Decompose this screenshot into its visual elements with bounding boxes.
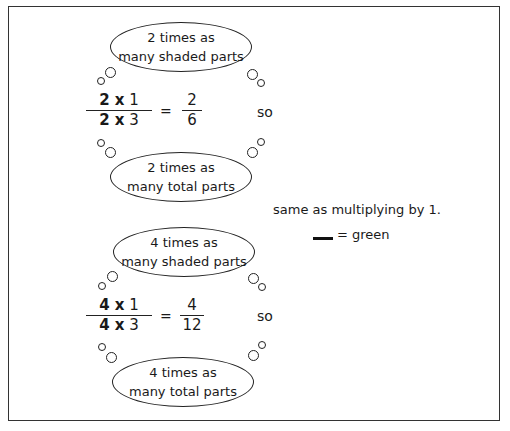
bottom-thought-bubble-2: 4 times as many total parts xyxy=(112,357,254,407)
bubble-text-line2: many total parts xyxy=(127,177,235,196)
denominator: 12 xyxy=(182,316,201,335)
fraction-left-1: 2 x 1 2 x 3 xyxy=(86,91,152,130)
thought-dot xyxy=(107,271,118,282)
numerator: 4 xyxy=(187,296,197,315)
bubble-text-line1: 4 times as xyxy=(150,233,217,252)
top-thought-bubble-1: 2 times as many shaded parts xyxy=(110,22,252,72)
thought-dot xyxy=(97,139,105,147)
bubble-text-line2: many total parts xyxy=(129,382,237,401)
thought-dot xyxy=(248,350,259,361)
thought-dot xyxy=(105,147,116,158)
legend-label: = green xyxy=(337,227,390,242)
denominator: 2 x 3 xyxy=(99,111,139,130)
thought-dot xyxy=(247,69,258,80)
thought-dot xyxy=(258,283,266,291)
so-label: so xyxy=(257,104,273,120)
thought-dot xyxy=(105,67,116,78)
numerator: 4 x 1 xyxy=(99,296,139,315)
bubble-text-line1: 4 times as xyxy=(149,363,216,382)
bubble-text-line1: 2 times as xyxy=(147,158,214,177)
denominator: 4 x 3 xyxy=(99,316,139,335)
thought-dot xyxy=(257,138,265,146)
numerator: 2 xyxy=(187,91,197,110)
thought-dot xyxy=(247,147,258,158)
fraction-right-1: 2 6 xyxy=(182,91,202,130)
thought-dot xyxy=(106,352,117,363)
fraction-right-2: 4 12 xyxy=(180,296,204,335)
legend: = green xyxy=(313,227,390,242)
thought-dot xyxy=(98,343,106,351)
legend-line-swatch xyxy=(313,237,333,240)
equals-sign: = xyxy=(160,103,172,119)
thought-dot xyxy=(248,273,259,284)
thought-dot xyxy=(258,341,266,349)
equals-sign: = xyxy=(160,308,172,324)
thought-dot xyxy=(257,79,265,87)
bottom-thought-bubble-1: 2 times as many total parts xyxy=(110,152,252,202)
so-label: so xyxy=(257,308,273,324)
fraction-left-2: 4 x 1 4 x 3 xyxy=(86,296,152,335)
thought-dot xyxy=(97,77,105,85)
top-thought-bubble-2: 4 times as many shaded parts xyxy=(113,227,255,277)
bubble-text-line2: many shaded parts xyxy=(121,252,247,271)
bubble-text-line1: 2 times as xyxy=(147,28,214,47)
denominator: 6 xyxy=(187,111,197,130)
numerator: 2 x 1 xyxy=(99,91,139,110)
bubble-text-line2: many shaded parts xyxy=(118,47,244,66)
thought-dot xyxy=(98,282,106,290)
note-text: same as multiplying by 1. xyxy=(273,202,441,217)
